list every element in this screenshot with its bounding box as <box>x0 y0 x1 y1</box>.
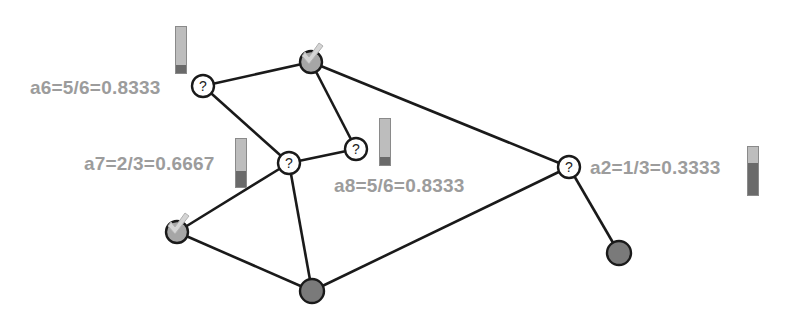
node-a2: ? <box>558 156 580 178</box>
probability-gauge-a8 <box>379 118 391 166</box>
edge-left-bottom <box>177 232 312 291</box>
question-mark-icon: ? <box>352 141 360 157</box>
probability-gauge-a6 <box>175 26 187 74</box>
probability-gauge-a7 <box>235 138 247 188</box>
edge-a7-bottom <box>289 163 312 291</box>
gauge-fill <box>176 65 186 73</box>
node-value-label-a6: a6=5/6=0.8333 <box>30 78 160 97</box>
question-mark-icon: ? <box>285 155 293 171</box>
node-value-label-a2: a2=1/3=0.3333 <box>590 158 720 177</box>
node-a7: ? <box>278 152 300 174</box>
node-bottom <box>300 279 324 303</box>
probability-gauge-a2 <box>747 146 759 196</box>
edge-top-a8 <box>311 62 356 149</box>
gauge-fill <box>748 163 758 195</box>
node-top <box>300 43 323 73</box>
edge-a2-right <box>569 167 619 253</box>
question-mark-icon: ? <box>199 78 207 94</box>
node-left <box>166 213 189 243</box>
node-a6: ? <box>192 75 214 97</box>
gauge-fill <box>380 157 390 165</box>
node-right <box>607 241 631 265</box>
question-mark-icon: ? <box>565 159 573 175</box>
node-value-label-a7: a7=2/3=0.6667 <box>84 154 214 173</box>
node-a8: ? <box>345 138 367 160</box>
edge-a6-top <box>203 62 311 86</box>
gauge-fill <box>236 171 246 187</box>
node-value-label-a8: a8=5/6=0.8333 <box>334 176 464 195</box>
